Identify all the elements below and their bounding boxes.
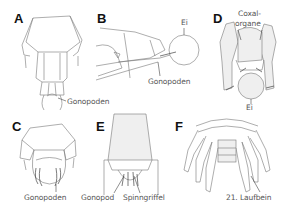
panel-label-a: A xyxy=(14,12,23,25)
label-e-spinngriffel: Spinngriffel xyxy=(123,194,165,202)
label-d-coxal: Coxal- xyxy=(238,10,261,18)
panel-label-e: E xyxy=(96,120,105,133)
panel-f-drawing xyxy=(184,119,270,192)
label-d-organe: organe xyxy=(235,20,261,28)
label-b-gonopoden: Gonopoden xyxy=(148,78,190,86)
label-f-laufbein: 21. Laufbein xyxy=(226,194,272,202)
label-e-gonopod: Gonopod xyxy=(81,194,114,202)
figure-drawings xyxy=(0,0,284,210)
panel-label-b: B xyxy=(97,12,106,25)
anatomy-figure: A B D C E F Gonopoden Ei Gonopoden Coxal… xyxy=(0,0,284,210)
label-b-ei: Ei xyxy=(181,19,188,27)
panel-c-drawing xyxy=(20,124,76,192)
panel-e-drawing xyxy=(104,114,158,195)
panel-label-c: C xyxy=(12,120,21,133)
label-c-gonopoden: Gonopoden xyxy=(24,194,66,202)
panel-label-f: F xyxy=(175,120,183,133)
panel-label-d: D xyxy=(213,12,222,25)
panel-a-drawing xyxy=(22,16,82,110)
label-d-ei: Ei xyxy=(246,104,253,112)
label-a-gonopoden: Gonopoden xyxy=(67,98,109,106)
panel-d-drawing xyxy=(220,22,276,104)
panel-b-drawing xyxy=(96,28,199,80)
